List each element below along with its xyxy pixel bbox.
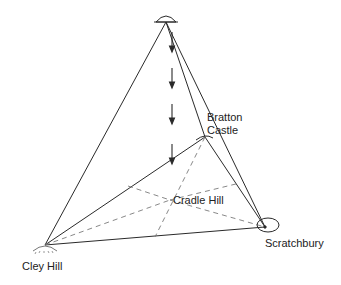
line-ufo-cley [45, 22, 166, 245]
arrow-down-icon [170, 118, 175, 124]
label-cley-hill: Cley Hill [22, 260, 62, 273]
hill-icon-cley [33, 246, 57, 254]
line-bratton-scratchbury [205, 137, 265, 227]
label-bratton: Bratton Castle [207, 111, 242, 137]
label-cradle-hill: Cradle Hill [173, 194, 224, 207]
dashed-bratton-cradle [155, 137, 205, 237]
line-cley-bratton [45, 137, 205, 245]
arrow-down-icon [170, 46, 175, 52]
dashed-sightlines [45, 137, 265, 245]
arrow-down-icon [170, 158, 175, 164]
descent-arrows [170, 32, 175, 164]
arrow-down-icon [170, 82, 175, 88]
label-bratton-line1: Bratton [207, 111, 242, 124]
label-bratton-line2: Castle [207, 124, 242, 137]
ufo-icon [154, 16, 178, 22]
dashed-bratton-side-cradle [128, 186, 170, 200]
dashed-cley-cradle [45, 200, 170, 245]
label-scratchbury: Scratchbury [265, 237, 324, 250]
hill-icon-scratchbury [257, 218, 279, 232]
